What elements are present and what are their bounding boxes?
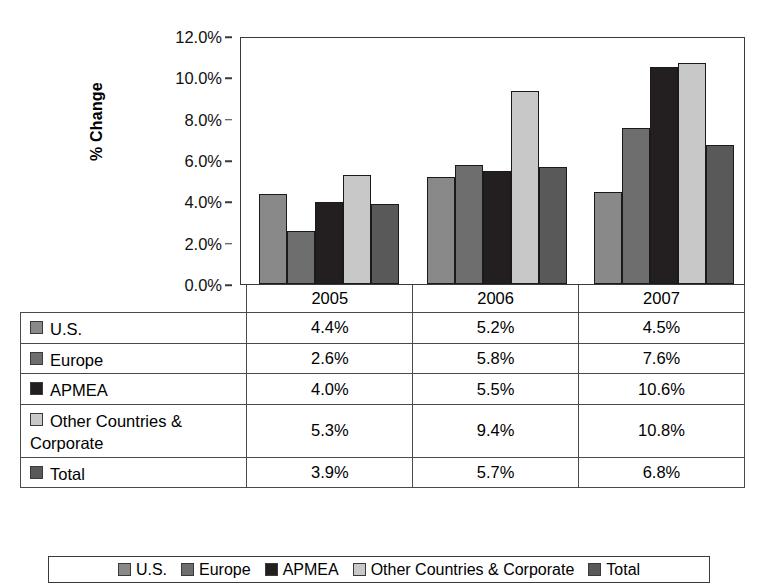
data-table-body: 200520062007U.S.4.4%5.2%4.5%Europe2.6%5.…	[21, 285, 745, 488]
bar	[343, 175, 371, 284]
legend-label: APMEA	[283, 561, 339, 579]
series-name: APMEA	[50, 381, 108, 399]
series-name: Europe	[50, 350, 103, 368]
table-header-year: 2005	[247, 285, 413, 313]
table-cell-value: 7.6%	[578, 343, 744, 374]
series-name: Other Countries & Corporate	[30, 412, 182, 452]
legend-item: APMEA	[265, 561, 339, 579]
y-tick-label: 12.0%	[175, 28, 222, 47]
y-tick-mark	[225, 160, 232, 162]
bar-group	[409, 38, 577, 284]
legend-item: Europe	[181, 561, 251, 579]
y-tick-mark	[225, 243, 232, 245]
bar	[706, 145, 734, 284]
table-row: Total3.9%5.7%6.8%	[21, 457, 745, 488]
legend-label: U.S.	[136, 561, 167, 579]
table-row: Other Countries & Corporate5.3%9.4%10.8%	[21, 405, 745, 457]
chart-legend: U.S.EuropeAPMEAOther Countries & Corpora…	[48, 556, 710, 583]
bar	[427, 177, 455, 284]
chart-plot-area	[240, 37, 745, 285]
legend-item: Other Countries & Corporate	[353, 561, 575, 579]
series-color-swatch-icon	[30, 352, 43, 365]
cut-off-title-strip	[0, 0, 757, 9]
table-row: Europe2.6%5.8%7.6%	[21, 343, 745, 374]
y-axis-ticks: 0.0%2.0%4.0%6.0%8.0%10.0%12.0%	[110, 37, 232, 285]
table-cell-value: 9.4%	[413, 405, 579, 457]
y-tick-label: 8.0%	[184, 110, 222, 129]
table-header-row: 200520062007	[21, 285, 745, 313]
bar-group	[241, 38, 409, 284]
bar	[594, 192, 622, 284]
table-row-label: Total	[21, 457, 247, 488]
series-color-swatch-icon	[30, 382, 43, 395]
table-cell-value: 3.9%	[247, 457, 413, 488]
table-row: U.S.4.4%5.2%4.5%	[21, 313, 745, 344]
bar	[511, 91, 539, 284]
legend-color-swatch-icon	[265, 563, 278, 576]
table-header-year: 2007	[578, 285, 744, 313]
legend-label: Europe	[199, 561, 251, 579]
y-tick-label: 2.0%	[184, 234, 222, 253]
table-header-year: 2006	[413, 285, 579, 313]
legend-color-swatch-icon	[118, 563, 131, 576]
table-cell-value: 4.5%	[578, 313, 744, 344]
table-cell-value: 5.2%	[413, 313, 579, 344]
legend-item: Total	[588, 561, 640, 579]
table-row-label: U.S.	[21, 313, 247, 344]
table-cell-value: 4.0%	[247, 374, 413, 405]
bar	[678, 63, 706, 284]
bar	[287, 231, 315, 284]
y-tick-mark	[225, 202, 232, 204]
table-cell-value: 5.5%	[413, 374, 579, 405]
y-tick-label: 4.0%	[184, 193, 222, 212]
legend-item: U.S.	[118, 561, 167, 579]
data-table: 200520062007U.S.4.4%5.2%4.5%Europe2.6%5.…	[20, 285, 745, 488]
bar	[315, 202, 343, 284]
bar	[371, 204, 399, 284]
table-row: APMEA4.0%5.5%10.6%	[21, 374, 745, 405]
bar	[622, 128, 650, 284]
legend-color-swatch-icon	[353, 563, 366, 576]
series-color-swatch-icon	[30, 321, 43, 334]
legend-label: Other Countries & Corporate	[371, 561, 575, 579]
table-row-label: Other Countries & Corporate	[21, 405, 247, 457]
y-tick-mark	[225, 119, 232, 121]
table-cell-value: 5.8%	[413, 343, 579, 374]
table-cell-value: 10.8%	[578, 405, 744, 457]
y-axis-title: % Change	[88, 82, 106, 161]
chart-bars-layer	[241, 38, 744, 284]
table-row-label: Europe	[21, 343, 247, 374]
table-cell-value: 4.4%	[247, 313, 413, 344]
table-cell-value: 2.6%	[247, 343, 413, 374]
legend-color-swatch-icon	[181, 563, 194, 576]
series-color-swatch-icon	[30, 413, 43, 426]
legend-color-swatch-icon	[588, 563, 601, 576]
bar-group	[576, 38, 744, 284]
table-cell-value: 6.8%	[578, 457, 744, 488]
series-name: U.S.	[50, 320, 82, 338]
bar	[259, 194, 287, 284]
table-cell-value: 5.7%	[413, 457, 579, 488]
table-row-label: APMEA	[21, 374, 247, 405]
bar	[539, 167, 567, 284]
y-tick-label: 6.0%	[184, 152, 222, 171]
table-cell-value: 10.6%	[578, 374, 744, 405]
bar	[455, 165, 483, 284]
y-tick-mark	[225, 78, 232, 80]
table-header-blank	[21, 285, 247, 313]
series-color-swatch-icon	[30, 466, 43, 479]
bar	[483, 171, 511, 284]
table-cell-value: 5.3%	[247, 405, 413, 457]
series-name: Total	[50, 464, 85, 482]
bar	[650, 67, 678, 284]
y-tick-mark	[225, 36, 232, 38]
y-tick-label: 10.0%	[175, 69, 222, 88]
legend-label: Total	[606, 561, 640, 579]
